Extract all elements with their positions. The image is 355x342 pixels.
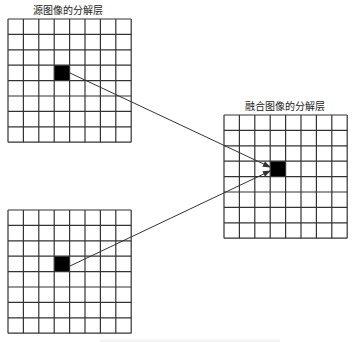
grids-layer — [8, 19, 347, 333]
highlighted-coefficient-cell — [54, 256, 69, 271]
fusion-diagram — [0, 0, 355, 342]
grid-source-bottom — [8, 210, 131, 333]
source-layer-label: 源图像的分解层 — [33, 2, 103, 17]
grid-fused — [224, 115, 347, 238]
fused-layer-label: 融合图像的分解层 — [245, 98, 325, 113]
highlighted-coefficient-cell — [270, 161, 285, 176]
grid-source-top — [8, 19, 131, 142]
cropped-caption — [100, 338, 280, 342]
highlighted-coefficient-cell — [54, 65, 69, 80]
